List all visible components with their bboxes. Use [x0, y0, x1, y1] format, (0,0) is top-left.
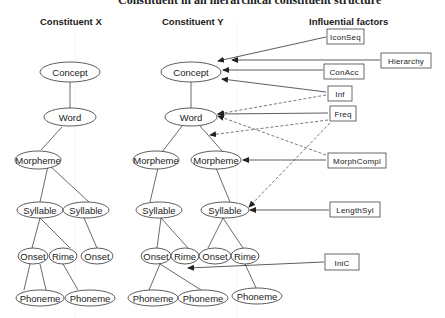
node-y-morpheme-1: Morpheme — [133, 151, 179, 169]
svg-text:Syllable: Syllable — [23, 205, 56, 216]
svg-text:Concept: Concept — [52, 67, 88, 78]
svg-text:MorphCompl: MorphCompl — [333, 157, 381, 166]
arrow-inf-word — [218, 95, 326, 114]
svg-text:Concept: Concept — [173, 67, 209, 78]
factor-inf: Inf — [328, 86, 352, 101]
svg-text:Morpheme: Morpheme — [133, 155, 178, 166]
tree-y-nodes: Concept Word Morpheme Morpheme Syllable … — [128, 62, 282, 306]
arrow-morphcompl-word — [218, 116, 326, 155]
svg-text:Morpheme: Morpheme — [193, 155, 238, 166]
svg-text:IniC: IniC — [334, 259, 349, 268]
svg-text:Onset: Onset — [20, 251, 46, 262]
svg-text:Inf: Inf — [335, 90, 345, 99]
svg-text:Phoneme: Phoneme — [133, 293, 174, 304]
arrow-inf-concept — [222, 79, 326, 92]
svg-text:Phoneme: Phoneme — [237, 291, 278, 302]
svg-text:Rime: Rime — [52, 251, 74, 262]
cropped-title: Constituent in an hierarchical constitue… — [118, 0, 382, 7]
svg-text:IconSeq: IconSeq — [330, 33, 361, 42]
svg-text:Onset: Onset — [84, 251, 110, 262]
node-y-syllable-2: Syllable — [201, 202, 249, 218]
svg-text:Onset: Onset — [202, 251, 228, 262]
node-x-onset-2: Onset — [81, 248, 113, 264]
node-y-rime-1: Rime — [171, 248, 199, 264]
svg-text:ConAcc: ConAcc — [329, 68, 358, 77]
factor-boxes: IconSeq Hierarchy ConAcc Inf Freq MorphC… — [324, 29, 431, 270]
svg-text:Morpheme: Morpheme — [15, 155, 60, 166]
node-y-morpheme-2: Morpheme — [191, 151, 241, 169]
factor-morphcompl: MorphCompl — [328, 153, 386, 168]
svg-text:Phoneme: Phoneme — [70, 293, 111, 304]
arrow-freq-morpheme-link — [210, 120, 328, 135]
header-constituent-y: Constituent Y — [162, 16, 224, 27]
factor-conacc: ConAcc — [324, 64, 364, 79]
node-x-syllable-1: Syllable — [17, 202, 63, 218]
arrow-iconseq — [218, 37, 326, 61]
node-x-phoneme-2: Phoneme — [65, 290, 115, 306]
node-x-word: Word — [44, 108, 96, 126]
svg-text:Phoneme: Phoneme — [183, 293, 224, 304]
svg-text:Syllable: Syllable — [69, 205, 102, 216]
svg-text:Word: Word — [59, 112, 82, 123]
node-y-rime-2: Rime — [231, 248, 259, 264]
node-x-onset-1: Onset — [18, 248, 48, 264]
node-x-phoneme-1: Phoneme — [16, 290, 64, 306]
svg-text:LengthSyl: LengthSyl — [336, 206, 373, 215]
svg-text:Word: Word — [180, 112, 203, 123]
arrow-freq-syllable — [249, 123, 330, 207]
svg-text:Onset: Onset — [143, 251, 169, 262]
node-x-rime-1: Rime — [49, 248, 77, 264]
factor-hierarchy: Hierarchy — [381, 53, 431, 68]
factor-lengthsyl: LengthSyl — [330, 202, 380, 217]
node-y-syllable-1: Syllable — [136, 202, 182, 218]
svg-text:Freq: Freq — [334, 110, 351, 119]
header-constituent-x: Constituent X — [40, 16, 102, 27]
factor-iconseq: IconSeq — [327, 29, 364, 44]
node-x-morpheme: Morpheme — [15, 151, 61, 169]
factor-freq: Freq — [330, 106, 356, 121]
svg-text:Syllable: Syllable — [142, 205, 175, 216]
node-x-concept: Concept — [40, 62, 100, 82]
svg-text:Rime: Rime — [174, 251, 196, 262]
svg-text:Hierarchy: Hierarchy — [388, 57, 424, 66]
svg-text:Syllable: Syllable — [208, 205, 241, 216]
svg-text:Phoneme: Phoneme — [20, 293, 61, 304]
node-x-syllable-2: Syllable — [63, 202, 109, 218]
header-influential-factors: Influential factors — [309, 16, 388, 27]
node-y-phoneme-1: Phoneme — [128, 290, 178, 306]
node-y-phoneme-3: Phoneme — [232, 288, 282, 304]
svg-text:Rime: Rime — [234, 251, 256, 262]
tree-x-nodes: Concept Word Morpheme Syllable Syllable … — [15, 62, 115, 306]
node-y-onset-2: Onset — [199, 248, 231, 264]
factor-inic: IniC — [325, 254, 359, 270]
constituent-diagram: Constituent in an hierarchical constitue… — [0, 0, 445, 318]
node-y-phoneme-2: Phoneme — [178, 290, 228, 306]
node-y-concept: Concept — [161, 62, 221, 82]
arrow-freq-word — [218, 113, 328, 114]
node-y-onset-1: Onset — [141, 248, 171, 264]
node-y-word: Word — [165, 108, 217, 126]
